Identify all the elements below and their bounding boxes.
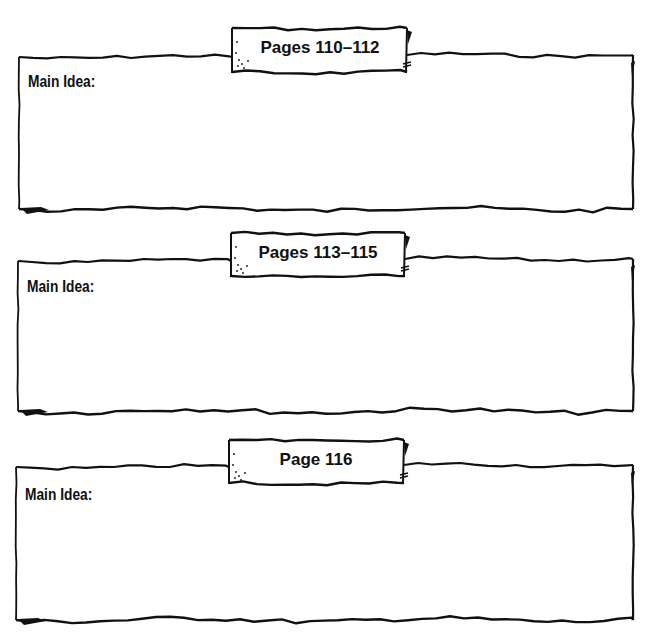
box-top-edge	[18, 259, 231, 264]
banner-flap	[405, 235, 410, 249]
banner-bottom-edge	[232, 70, 407, 74]
banner-speckle	[246, 265, 248, 267]
box-right-edge	[632, 259, 633, 411]
banner-speckle	[243, 67, 245, 69]
banner-bottom-edge	[231, 275, 405, 278]
banner-speckle	[238, 59, 240, 61]
main-idea-answer-area[interactable]	[22, 300, 628, 408]
box-top-edge	[19, 55, 232, 59]
banner-top-edge	[231, 232, 405, 235]
box-bottom-edge	[18, 408, 633, 415]
banner-speckle	[238, 475, 240, 477]
box-left-edge	[19, 57, 20, 209]
box-top-edge	[404, 463, 633, 467]
box-bottom-edge	[19, 206, 633, 212]
box-top-edge	[16, 464, 229, 469]
box-left-edge	[18, 261, 19, 411]
banner-speckle	[242, 272, 244, 274]
section-banner-title: Page 116	[232, 450, 400, 470]
main-idea-answer-area[interactable]	[24, 95, 628, 203]
box-left-edge	[16, 467, 17, 620]
banner-speckle	[241, 63, 243, 65]
banner-speckle	[234, 477, 236, 479]
main-idea-label: Main Idea:	[25, 486, 92, 504]
banner-flap	[404, 442, 409, 456]
banner-top-edge	[229, 439, 404, 442]
banner-speckle	[244, 472, 246, 474]
box-corner-curl	[21, 207, 49, 214]
banner-flap	[407, 30, 412, 44]
worksheet: Pages 110–112 Main Idea: Pages 113–115 M…	[0, 0, 647, 639]
banner-speckle	[235, 471, 237, 473]
banner-speckle	[240, 479, 242, 481]
banner-speckle	[237, 264, 239, 266]
box-top-edge	[405, 256, 633, 261]
box-right-edge	[632, 55, 633, 209]
banner-speckle	[247, 60, 249, 62]
main-idea-label: Main Idea:	[28, 73, 95, 91]
banner-top-edge	[232, 27, 407, 31]
banner-speckle	[236, 270, 238, 272]
banner-bottom-edge	[229, 481, 404, 485]
box-top-edge	[407, 53, 633, 58]
main-idea-label: Main Idea:	[27, 278, 94, 296]
section-banner-title: Pages 113–115	[234, 243, 402, 263]
banner-speckle	[240, 268, 242, 270]
section-banner-title: Pages 110–112	[236, 38, 404, 58]
main-idea-answer-area[interactable]	[20, 508, 628, 618]
banner-speckle	[237, 65, 239, 67]
box-right-edge	[632, 465, 633, 620]
